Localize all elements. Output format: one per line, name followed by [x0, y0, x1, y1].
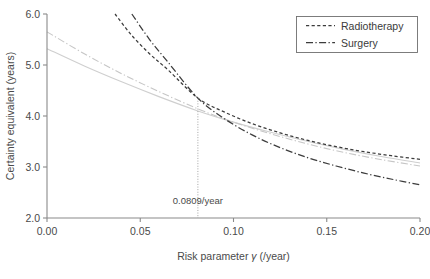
- y-axis-title: Certainty equivalent (years): [4, 52, 16, 180]
- x-tick-label: 0.00: [37, 225, 58, 237]
- y-tick-label: 4.0: [25, 110, 40, 122]
- y-tick-label: 6.0: [25, 8, 40, 20]
- y-axis-tick-labels: 2.03.04.05.06.0: [25, 8, 40, 224]
- chart-container: 2.03.04.05.06.0 0.000.050.100.150.20 0.0…: [0, 0, 430, 279]
- curve-surgery-low: [47, 49, 420, 163]
- x-axis-title-suffix: (/year): [257, 250, 290, 262]
- x-axis-title-prefix: Risk parameter: [177, 250, 251, 262]
- annotation-label: 0.0809/year: [173, 195, 223, 206]
- legend-label-surgery: Surgery: [341, 37, 379, 49]
- y-tick-label: 5.0: [25, 59, 40, 71]
- legend: Radiotherapy Surgery: [297, 17, 418, 53]
- x-axis-title: Risk parameter γ (/year): [177, 250, 290, 262]
- x-axis-ticks: [47, 218, 420, 222]
- x-tick-label: 0.15: [317, 225, 338, 237]
- x-tick-label: 0.10: [223, 225, 244, 237]
- x-tick-label: 0.20: [410, 225, 430, 237]
- x-tick-label: 0.05: [130, 225, 151, 237]
- y-tick-label: 2.0: [25, 212, 40, 224]
- line-chart: 2.03.04.05.06.0 0.000.050.100.150.20 0.0…: [0, 0, 430, 279]
- legend-label-radiotherapy: Radiotherapy: [341, 20, 404, 32]
- y-axis-ticks: [43, 14, 47, 218]
- x-axis-tick-labels: 0.000.050.100.150.20: [37, 225, 430, 237]
- y-tick-label: 3.0: [25, 161, 40, 173]
